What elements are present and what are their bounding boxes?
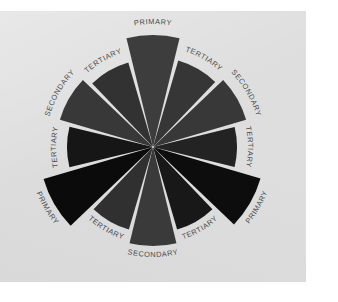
color-wheel-figure: PRIMARYTERTIARYSECONDARYTERTIARYPRIMARYT… <box>0 0 338 302</box>
wedge-label-tertiary-9: TERTIARY <box>49 125 60 168</box>
color-wheel-svg: PRIMARYTERTIARYSECONDARYTERTIARYPRIMARYT… <box>0 11 306 282</box>
wedge-group <box>44 35 261 246</box>
wedge-label-secondary-6: SECONDARY <box>127 247 179 259</box>
wedge-label-tertiary-3: TERTIARY <box>244 125 255 168</box>
color-wheel-container: PRIMARYTERTIARYSECONDARYTERTIARYPRIMARYT… <box>0 11 306 282</box>
wedge-label-primary-0: PRIMARY <box>133 17 172 27</box>
